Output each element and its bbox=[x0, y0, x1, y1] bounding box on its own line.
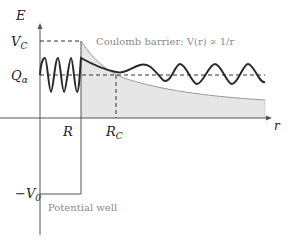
alpha-decay-diagram: E r VC Qα −V0 R RC Coulomb barrier: V(r)… bbox=[0, 0, 294, 249]
coulomb-barrier-annotation: Coulomb barrier: V(r) ∝ 1/r bbox=[96, 36, 234, 47]
rc-label: RC bbox=[105, 124, 123, 141]
r-label: R bbox=[62, 124, 73, 139]
radius-axis-arrow bbox=[266, 116, 272, 121]
radius-axis-label: r bbox=[274, 119, 281, 133]
vc-label: VC bbox=[11, 34, 27, 51]
q-alpha-label: Qα bbox=[11, 68, 28, 85]
energy-axis-arrow bbox=[38, 23, 43, 29]
potential-well-annotation: Potential well bbox=[48, 202, 117, 213]
v0-label: −V0 bbox=[15, 186, 41, 203]
energy-axis-label: E bbox=[15, 8, 26, 23]
